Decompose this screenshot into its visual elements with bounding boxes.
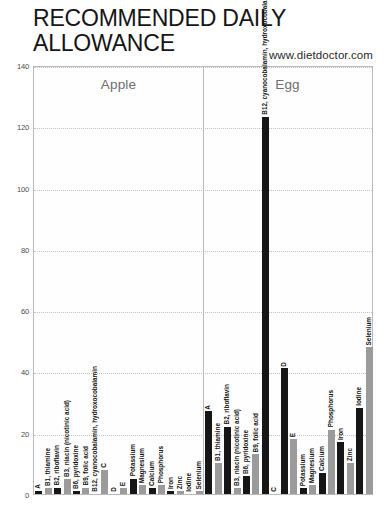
bar: [177, 491, 184, 494]
bar-category-label: B12, cyanocobalamin, hydroxocobalamin: [262, 0, 268, 115]
bar: [64, 479, 71, 494]
bar-category-label: B3, niacin (nicotinic acid): [64, 400, 70, 477]
bar-category-label: B6, pyridoxine: [243, 430, 249, 474]
bar: [215, 463, 222, 494]
plot-area: Apple Egg AB1, thiamineB2, riboflavinB3,…: [33, 66, 373, 495]
bar: [82, 488, 89, 494]
bar: [328, 430, 335, 494]
bar: [300, 488, 307, 494]
bar: [319, 473, 326, 494]
bar: [196, 491, 203, 494]
bar: [139, 485, 146, 494]
bar-category-label: B9, folic acid: [83, 446, 89, 485]
bar: [158, 485, 165, 494]
bar: [356, 408, 363, 494]
y-tick-label: 140: [0, 62, 32, 71]
bar: [45, 488, 52, 494]
bar: [54, 488, 61, 494]
bar: [167, 491, 174, 494]
y-tick-label: 0: [0, 491, 32, 500]
bar: [224, 427, 231, 494]
bar-category-label: B2, riboflavin: [54, 445, 60, 485]
bar-category-label: C: [101, 463, 107, 468]
bar: [205, 411, 212, 494]
bar: [101, 470, 108, 495]
bar: [252, 454, 259, 494]
bar: [73, 491, 80, 494]
bar: [149, 488, 156, 494]
bar-category-label: A: [35, 484, 41, 489]
bar-category-label: B6, pyridoxine: [73, 445, 79, 489]
bar-category-label: B2, riboflavin: [224, 384, 230, 424]
bar: [35, 491, 42, 494]
bar-category-label: A: [205, 405, 211, 410]
y-tick-label: 20: [0, 430, 32, 439]
y-tick-label: 80: [0, 246, 32, 255]
bar-category-label: Calcium: [319, 446, 325, 471]
bar-category-label: Zinc: [347, 448, 353, 461]
bar-category-label: Magnesium: [139, 448, 145, 483]
bar-category-label: Phosphorus: [158, 446, 164, 483]
bar-category-label: Iron: [338, 428, 344, 440]
bar-category-label: B1, thiamine: [215, 423, 221, 461]
bar-category-label: Calcium: [149, 461, 155, 486]
y-tick-label: 120: [0, 123, 32, 132]
bar-category-label: E: [290, 433, 296, 437]
bar: [281, 368, 288, 494]
y-tick-label: 40: [0, 368, 32, 377]
bar-category-label: E: [120, 482, 126, 486]
bar-category-label: Selenium: [196, 461, 202, 489]
bar-category-label: Iodine: [186, 473, 192, 492]
bar: [366, 347, 373, 494]
bars-layer: AB1, thiamineB2, riboflavinB3, niacin (n…: [34, 67, 372, 494]
bar-category-label: D: [281, 362, 287, 367]
bar-category-label: Iron: [168, 477, 174, 489]
bar-category-label: Iodine: [356, 387, 362, 406]
bar-category-label: Selenium: [366, 317, 372, 345]
bar-category-label: B9, folic acid: [253, 413, 259, 452]
bar: [309, 485, 316, 494]
bar-category-label: Potassium: [130, 444, 136, 476]
bar: [130, 479, 137, 494]
bar-category-label: C: [271, 487, 277, 492]
bar: [243, 476, 250, 494]
bar-category-label: D: [111, 487, 117, 492]
bar-category-label: B3, niacin (nicotinic acid): [234, 409, 240, 486]
bar: [234, 488, 241, 494]
bar-category-label: B12, cyanocobalamin, hydroxocobalamin: [92, 366, 98, 492]
bar-category-label: Zinc: [177, 476, 183, 489]
bar-category-label: Magnesium: [309, 448, 315, 483]
y-tick-label: 60: [0, 307, 32, 316]
y-tick-label: 100: [0, 185, 32, 194]
bar: [262, 117, 269, 494]
bar: [347, 463, 354, 494]
bar: [290, 439, 297, 494]
bar-category-label: Phosphorus: [328, 390, 334, 427]
source-url: www.dietdoctor.com: [269, 49, 373, 61]
rda-chart: RECOMMENDED DAILY ALLOWANCE www.dietdoct…: [0, 0, 385, 525]
bar: [120, 488, 127, 494]
bar: [337, 442, 344, 494]
bar-category-label: Potassium: [300, 454, 306, 486]
bar-category-label: B1, thiamine: [45, 448, 51, 486]
